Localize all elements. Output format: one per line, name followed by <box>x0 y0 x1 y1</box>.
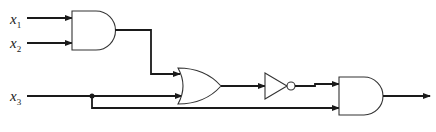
wire-and1-or <box>115 30 180 74</box>
logic-circuit-diagram: x1 x2 x3 <box>0 0 436 132</box>
not-gate <box>265 73 287 99</box>
and-gate-2 <box>339 77 383 115</box>
wire-x3-and2 <box>92 96 339 108</box>
circuit-svg <box>0 0 436 132</box>
not-bubble <box>287 82 295 90</box>
and-gate-1 <box>72 11 116 50</box>
or-gate <box>178 68 221 104</box>
wire-not-and2 <box>295 84 339 86</box>
